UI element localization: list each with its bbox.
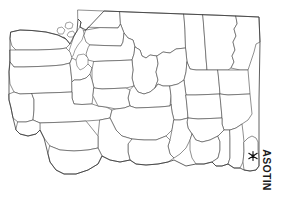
county-san-juan-isle-1 [65, 22, 73, 29]
washington-county-map-figure: ASOTIN [0, 0, 283, 200]
county-grays-harbor [9, 62, 72, 94]
county-pierce [93, 88, 130, 109]
county-garfield [228, 124, 244, 168]
county-san-juan-isle-2 [57, 27, 65, 34]
county-stevens [203, 15, 237, 70]
county-jefferson [10, 48, 72, 67]
county-adams [186, 94, 222, 119]
county-spokane [218, 70, 250, 95]
state-map-svg [0, 0, 283, 200]
county-klickitat [128, 136, 174, 165]
county-king [92, 60, 134, 89]
county-cowlitz [40, 121, 98, 151]
county-whitman [220, 94, 252, 130]
